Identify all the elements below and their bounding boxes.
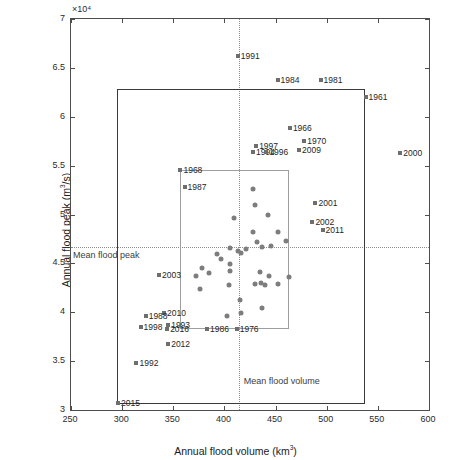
y-axis-tick (425, 312, 429, 313)
x-axis-tick-label: 450 (267, 414, 282, 424)
data-point-label: 1968 (183, 165, 202, 175)
data-point (225, 314, 230, 319)
y-axis-tick-label: 3.5 (46, 355, 65, 365)
data-point (238, 311, 243, 316)
data-point-label: 1984 (281, 75, 300, 85)
data-point (269, 243, 274, 248)
x-axis-tick-label: 400 (216, 414, 231, 424)
data-point (255, 239, 260, 244)
data-point (253, 281, 258, 286)
data-point-label: 2009 (302, 145, 321, 155)
data-point-marker (313, 201, 317, 205)
data-point-marker (144, 314, 148, 318)
y-axis-tick (71, 68, 75, 69)
data-point (275, 281, 280, 286)
y-axis-tick (425, 166, 429, 167)
x-axis-tick (378, 19, 379, 23)
x-axis-tick (173, 406, 174, 410)
data-point (251, 187, 256, 192)
x-axis-tick-label: 600 (420, 414, 435, 424)
data-point (197, 286, 202, 291)
data-point-label: 1981 (324, 75, 343, 85)
y-axis-tick (425, 361, 429, 362)
data-point-marker (310, 220, 314, 224)
data-point-label: 2000 (403, 148, 422, 158)
data-point-marker (205, 327, 209, 331)
data-point-label: 2001 (318, 198, 337, 208)
data-point-marker (235, 327, 239, 331)
data-point (238, 250, 243, 255)
data-point-label: 1998 (144, 322, 163, 332)
data-point-marker (165, 327, 169, 331)
x-axis-tick-label: 300 (114, 414, 129, 424)
data-point-marker (178, 168, 182, 172)
data-point-label: 1961 (369, 92, 388, 102)
y-axis-tick (71, 410, 75, 411)
x-axis-tick (224, 19, 225, 23)
y-axis-tick (71, 117, 75, 118)
data-point (207, 271, 212, 276)
y-axis-tick-label: 5 (46, 209, 65, 219)
y-axis-tick-label: 6 (46, 111, 65, 121)
data-point-marker (183, 185, 187, 189)
data-point-marker (276, 78, 280, 82)
x-axis-title: Annual flood volume (km3) (174, 444, 297, 457)
x-axis-tick (429, 19, 430, 23)
y-axis-tick-label: 7 (46, 13, 65, 23)
x-axis-tick (173, 19, 174, 23)
y-axis-tick (425, 263, 429, 264)
data-point-label: 1987 (188, 182, 207, 192)
y-axis-tick (71, 361, 75, 362)
y-axis-tick-label: 4 (46, 306, 65, 316)
data-point-label: 2010 (167, 308, 186, 318)
data-point-label: 1988 (149, 311, 168, 321)
data-point (275, 230, 280, 235)
y-axis-tick-label: 3 (46, 404, 65, 414)
x-axis-tick (276, 406, 277, 410)
y-axis-tick (425, 19, 429, 20)
data-point-label: 2003 (162, 270, 181, 280)
data-point-marker (166, 342, 170, 346)
data-point (243, 246, 248, 251)
data-point-label: 1996 (269, 147, 288, 157)
data-point (231, 216, 236, 221)
y-axis-tick (425, 215, 429, 216)
data-point-label: 1966 (293, 123, 312, 133)
y-axis-tick (71, 263, 75, 264)
data-point-label: 1991 (241, 51, 260, 61)
data-point (286, 275, 291, 280)
x-axis-tick-label: 500 (318, 414, 333, 424)
data-point (193, 274, 198, 279)
data-point-marker (236, 54, 240, 58)
y-axis-tick (71, 312, 75, 313)
data-point-label: 2016 (170, 324, 189, 334)
x-axis-tick (327, 19, 328, 23)
y-axis-tick (71, 215, 75, 216)
data-point (267, 274, 272, 279)
data-point (199, 266, 204, 271)
data-point (260, 306, 265, 311)
data-point (253, 202, 258, 207)
data-point (227, 269, 232, 274)
data-point-marker (302, 139, 306, 143)
y-axis-tick-label: 6.5 (46, 62, 65, 72)
data-point-marker (251, 150, 255, 154)
data-point-marker (319, 78, 323, 82)
data-point (283, 238, 288, 243)
data-point (215, 251, 220, 256)
data-point (227, 262, 232, 267)
data-point-marker (398, 151, 402, 155)
data-point-label: 1992 (139, 358, 158, 368)
x-axis-tick (276, 19, 277, 23)
data-point (258, 270, 263, 275)
data-point-marker (157, 273, 161, 277)
data-point-marker (364, 95, 368, 99)
data-point-label: 2012 (171, 339, 190, 349)
x-axis-tick-label: 250 (62, 414, 77, 424)
data-point-label: 2011 (326, 225, 344, 235)
data-point (263, 282, 268, 287)
data-point-label: 1976 (240, 324, 259, 334)
y-axis-tick (425, 68, 429, 69)
data-point (251, 230, 256, 235)
y-axis-tick (71, 166, 75, 167)
